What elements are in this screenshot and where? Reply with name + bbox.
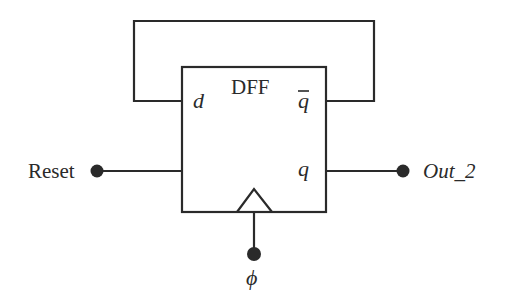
output-terminal-dot <box>397 165 410 178</box>
port-d-label: d <box>193 88 205 113</box>
output-label: Out_2 <box>423 159 476 183</box>
clock-triangle-icon <box>237 189 272 212</box>
reset-label: Reset <box>28 159 75 183</box>
block-title: DFF <box>231 75 270 99</box>
port-q-label: q <box>298 156 309 181</box>
clock-phi-label: ϕ <box>246 265 257 290</box>
dff-diagram: DFF d q q Reset Out_2 ϕ <box>0 0 507 305</box>
clock-terminal-dot <box>247 247 261 261</box>
reset-terminal-dot <box>91 165 104 178</box>
